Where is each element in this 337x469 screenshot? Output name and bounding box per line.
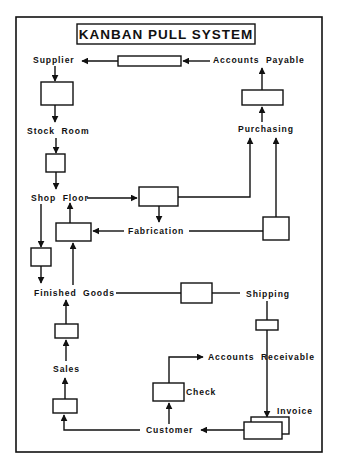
- kanban-card-shipping-small: [256, 320, 278, 330]
- label-stock-room: Stock Room: [27, 126, 89, 136]
- label-shipping: Shipping: [246, 289, 290, 299]
- kanban-diagram: KANBAN PULL SYSTEM Supplier Accounts Pay…: [0, 0, 337, 469]
- kanban-card-stockroom: [46, 154, 65, 172]
- label-invoice: Invoice: [277, 406, 313, 416]
- label-accounts-payable: Accounts Payable: [213, 55, 305, 65]
- kanban-card-shopfloor-down: [31, 248, 51, 266]
- kanban-card-fabrication-right: [263, 217, 289, 240]
- page-title: KANBAN PULL SYSTEM: [79, 27, 254, 42]
- kanban-card-check: [153, 383, 184, 401]
- label-shop-floor: Shop Floor: [31, 193, 89, 203]
- kanban-card-fabrication-left: [56, 223, 91, 241]
- invoice-card-front: [244, 422, 282, 439]
- kanban-card-sales: [55, 324, 78, 338]
- kanban-card-supplier: [41, 82, 73, 105]
- kanban-card-customer: [53, 399, 77, 413]
- arrow-customer-to-sales-box: [64, 415, 140, 430]
- arrow-box-to-purchasing: [178, 138, 250, 197]
- label-sales: Sales: [53, 364, 80, 374]
- kanban-card-payment: [118, 56, 181, 66]
- arrow-check-to-receivable: [169, 357, 203, 383]
- kanban-card-purchasing: [242, 90, 283, 105]
- label-check: Check: [186, 387, 216, 397]
- kanban-card-shopfloor: [139, 187, 178, 206]
- label-supplier: Supplier: [33, 55, 75, 65]
- label-finished-goods: Finished Goods: [34, 288, 115, 298]
- kanban-card-shipping: [181, 283, 212, 303]
- label-accounts-receivable: Accounts Receivable: [208, 352, 315, 362]
- label-customer: Customer: [146, 425, 193, 435]
- label-fabrication: Fabrication: [128, 226, 184, 236]
- label-purchasing: Purchasing: [238, 124, 294, 134]
- title-box: KANBAN PULL SYSTEM: [77, 24, 255, 44]
